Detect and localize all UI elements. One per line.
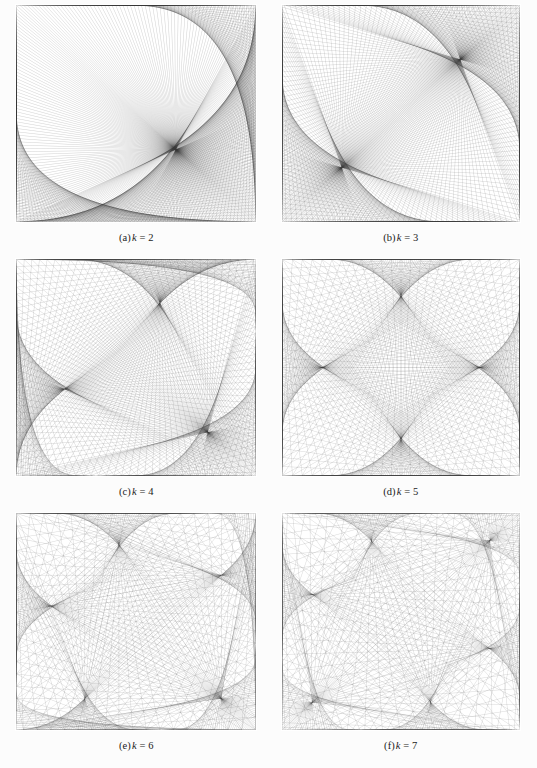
panel-d-plot-area [281,258,521,477]
panel-f-caption: (f)k = 7 [384,740,417,751]
panel-b-caption-variable: k [396,232,402,243]
figure-sheet: (a)k = 2 (b)k = 3 (c)k = 4 (d)k [0,0,537,768]
panel-d-caption: (d)k = 5 [383,486,418,497]
string-art-canvas-d [281,258,521,477]
panel-b-plot-area [281,4,521,223]
panel-b-caption: (b)k = 3 [383,232,418,243]
panel-b-caption-value: = 3 [404,232,418,243]
panel-c-caption: (c)k = 4 [119,486,154,497]
panel-f-plot-area [281,512,521,731]
figure-panel-c: (c)k = 4 [4,258,269,512]
string-art-canvas-a [15,4,257,223]
panel-c-caption-variable: k [131,486,137,497]
string-art-canvas-c [15,258,257,477]
panel-c-caption-tag: (c) [119,486,131,497]
string-art-canvas-e [15,512,257,731]
panel-grid: (a)k = 2 (b)k = 3 (c)k = 4 (d)k [0,0,537,768]
panel-a-plot-area [15,4,257,223]
string-art-canvas-f [281,512,521,731]
panel-e-caption-value: = 6 [139,740,153,751]
string-art-canvas-b [281,4,521,223]
figure-panel-a: (a)k = 2 [4,4,269,258]
panel-f-caption-variable: k [395,740,401,751]
panel-a-caption: (a)k = 2 [119,232,154,243]
panel-d-caption-tag: (d) [383,486,396,497]
panel-d-caption-variable: k [396,486,402,497]
panel-d-caption-value: = 5 [404,486,418,497]
panel-a-caption-tag: (a) [119,232,131,243]
panel-e-caption: (e)k = 6 [119,740,154,751]
panel-a-caption-variable: k [131,232,137,243]
panel-e-plot-area [15,512,257,731]
figure-panel-b: (b)k = 3 [269,4,534,258]
panel-f-caption-tag: (f) [384,740,395,751]
figure-panel-e: (e)k = 6 [4,512,269,766]
figure-panel-f: (f)k = 7 [269,512,534,766]
panel-c-plot-area [15,258,257,477]
panel-e-caption-variable: k [131,740,137,751]
panel-e-caption-tag: (e) [119,740,131,751]
figure-panel-d: (d)k = 5 [269,258,534,512]
panel-c-caption-value: = 4 [139,486,153,497]
panel-f-caption-value: = 7 [403,740,417,751]
panel-a-caption-value: = 2 [139,232,153,243]
panel-b-caption-tag: (b) [383,232,396,243]
